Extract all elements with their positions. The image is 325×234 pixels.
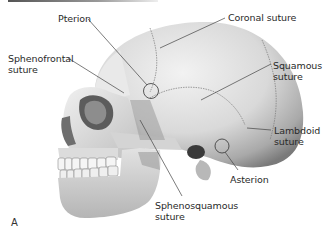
label-pterion: Pterion xyxy=(58,13,91,24)
external-acoustic-meatus xyxy=(187,145,205,159)
panel-label: A xyxy=(11,217,18,228)
label-lambdoid-suture: Lambdoidsuture xyxy=(274,125,320,147)
mastoid-process xyxy=(196,160,211,180)
label-asterion: Asterion xyxy=(230,174,269,185)
label-squamous-suture: Squamoussuture xyxy=(273,60,322,82)
skull-illustration xyxy=(0,0,325,234)
label-coronal-suture: Coronal suture xyxy=(228,12,296,23)
label-sphenofrontal-suture: Sphenofrontalsuture xyxy=(8,53,74,75)
label-sphenosquamous-suture: Sphenosquamoussuture xyxy=(155,200,238,222)
